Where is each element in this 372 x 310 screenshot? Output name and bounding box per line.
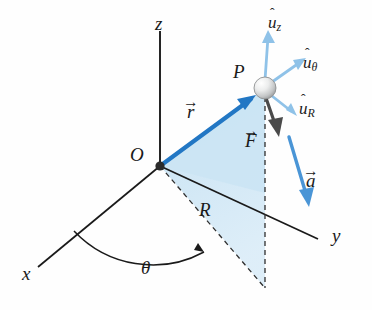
- azimuth-angle-arc: [74, 231, 204, 265]
- unit-vector-r-subscript: R: [308, 106, 315, 120]
- unit-vector-theta-label: ̂ u θ: [303, 54, 317, 74]
- physics-vector-diagram: z x y O P → r → F → a ̂ u z ̂ u θ: [0, 0, 372, 310]
- x-axis-line: [38, 166, 160, 267]
- unit-vector-r-arrowhead: [286, 103, 297, 116]
- unit-vector-z-subscript: z: [277, 20, 282, 34]
- origin-dot: [155, 161, 164, 170]
- unit-vector-theta-letter: u: [303, 53, 312, 72]
- diagram-canvas: [0, 0, 372, 310]
- unit-vector-r-label: ̂ u R: [299, 100, 315, 120]
- x-axis-label: x: [22, 264, 30, 283]
- acceleration-vector-label: → a: [306, 171, 316, 190]
- azimuth-arc-arrowhead: [194, 243, 204, 252]
- position-vector-label: → r: [187, 102, 194, 121]
- position-vector-arrow-accent: →: [183, 94, 199, 110]
- unit-vector-r-letter: u: [299, 99, 308, 118]
- radial-distance-label: R: [199, 200, 211, 219]
- force-vector-arrowhead: [268, 117, 283, 137]
- particle-sphere: [254, 77, 276, 99]
- unit-vector-z-shaft: [265, 37, 268, 80]
- force-vector-arrow-accent: →: [243, 123, 259, 139]
- y-axis-label: y: [332, 226, 340, 245]
- origin-label: O: [130, 145, 144, 164]
- unit-vector-z-letter: u: [268, 13, 277, 32]
- point-p-label: P: [233, 62, 245, 81]
- z-axis-label: z: [155, 14, 162, 33]
- unit-vector-z-label: ̂ u z: [268, 14, 281, 34]
- unit-vector-theta-shaft: [272, 63, 299, 82]
- force-vector-label: → F: [245, 131, 257, 150]
- azimuth-angle-label: θ: [141, 258, 150, 277]
- unit-vector-theta-subscript: θ: [312, 60, 318, 74]
- acceleration-vector-arrow-accent: →: [303, 163, 319, 179]
